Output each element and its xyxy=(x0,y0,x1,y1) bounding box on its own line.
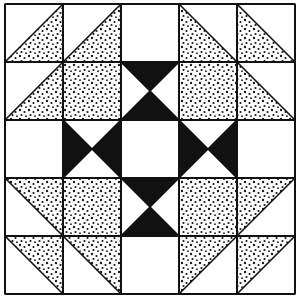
dotted-square xyxy=(179,178,237,236)
quilt-square-white xyxy=(121,4,179,62)
quilt-square-white xyxy=(237,120,295,178)
quilt-cells xyxy=(5,4,295,294)
dotted-square xyxy=(179,62,237,120)
quilt-square-white xyxy=(5,120,63,178)
quilt-block xyxy=(0,0,297,302)
dotted-square xyxy=(63,178,121,236)
quilt-square-white xyxy=(121,120,179,178)
dotted-square xyxy=(63,62,121,120)
quilt-square-white xyxy=(121,236,179,294)
